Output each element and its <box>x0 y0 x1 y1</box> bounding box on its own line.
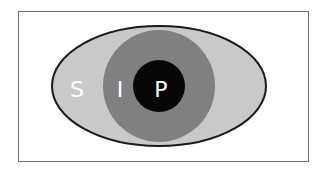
eye-diagram: S I P <box>0 0 325 173</box>
iris-label: I <box>117 77 124 102</box>
sclera-label: S <box>70 77 84 102</box>
pupil-label: P <box>154 77 167 102</box>
